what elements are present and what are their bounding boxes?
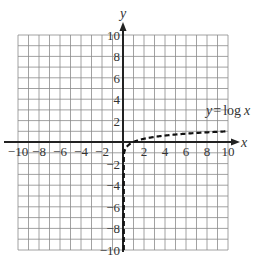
y-tick-label: 10 bbox=[107, 28, 120, 43]
x-tick-label: 8 bbox=[204, 144, 211, 159]
y-tick-label: −8 bbox=[106, 221, 120, 236]
log-graph: −10−8−6−4−2246810108642−2−4−6−8−10 x y y… bbox=[0, 0, 262, 258]
y-tick-label: 6 bbox=[114, 71, 121, 86]
x-tick-label: 4 bbox=[162, 144, 169, 159]
y-tick-label: 4 bbox=[114, 92, 121, 107]
y-axis-label: y bbox=[118, 6, 127, 21]
y-tick-label: −2 bbox=[106, 157, 120, 172]
x-tick-label: −10 bbox=[8, 144, 28, 159]
x-tick-label: 6 bbox=[183, 144, 190, 159]
y-tick-label: 8 bbox=[114, 49, 121, 64]
x-tick-label: 10 bbox=[222, 144, 235, 159]
x-axis-label: x bbox=[240, 135, 248, 150]
x-tick-label: −4 bbox=[74, 144, 88, 159]
curve-label: y=logx bbox=[204, 103, 251, 118]
x-tick-label: −6 bbox=[53, 144, 67, 159]
y-tick-label: −6 bbox=[106, 200, 120, 215]
x-tick-label: −8 bbox=[32, 144, 46, 159]
y-tick-label: −10 bbox=[100, 243, 120, 258]
y-tick-label: −4 bbox=[106, 178, 120, 193]
y-tick-label: 2 bbox=[114, 114, 121, 129]
x-tick-label: 2 bbox=[141, 144, 148, 159]
